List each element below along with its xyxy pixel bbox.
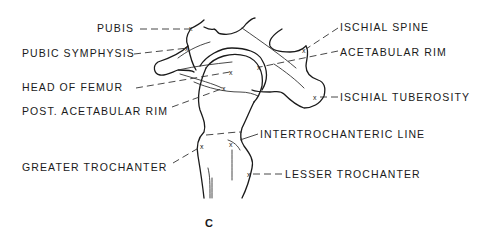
marker-ischial-spine: x: [302, 47, 306, 54]
point-markers: x x x x x x x x x x: [185, 25, 317, 178]
label-lesser-trochanter: LESSER TROCHANTER: [285, 168, 421, 180]
marker-lesser-trochanter: x: [247, 171, 251, 178]
marker-pubis: x: [189, 25, 193, 32]
label-ischial-spine: ISCHIAL SPINE: [340, 21, 429, 33]
label-head-of-femur: HEAD OF FEMUR: [22, 81, 123, 93]
pelvis-outline: [154, 18, 324, 108]
label-intertrochanteric-line: INTERTROCHANTERIC LINE: [260, 128, 425, 140]
label-pubic-symphysis: PUBIC SYMPHYSIS: [22, 47, 135, 59]
hip-joint-diagram: x x x x x x x x x x PUBIS PUBIC SYMPHYSI…: [0, 0, 493, 240]
marker-post-acetabular-rim: x: [222, 85, 226, 92]
labels: PUBIS PUBIC SYMPHYSIS HEAD OF FEMUR POST…: [22, 21, 470, 229]
label-pubis: PUBIS: [97, 22, 134, 34]
label-ischial-tuberosity: ISCHIAL TUBEROSITY: [340, 91, 470, 103]
label-acetabular-rim: ACETABULAR RIM: [340, 46, 447, 58]
marker-pubic-symphysis: x: [185, 45, 189, 52]
marker-acetabular-rim: x: [257, 64, 261, 71]
label-greater-trochanter: GREATER TROCHANTER: [22, 161, 167, 173]
label-post-acetabular-rim: POST. ACETABULAR RIM: [22, 105, 168, 117]
marker-intertrochanteric-line: x: [229, 141, 233, 148]
figure-label: C: [205, 217, 213, 229]
marker-ischial-tuberosity: x: [313, 94, 317, 101]
